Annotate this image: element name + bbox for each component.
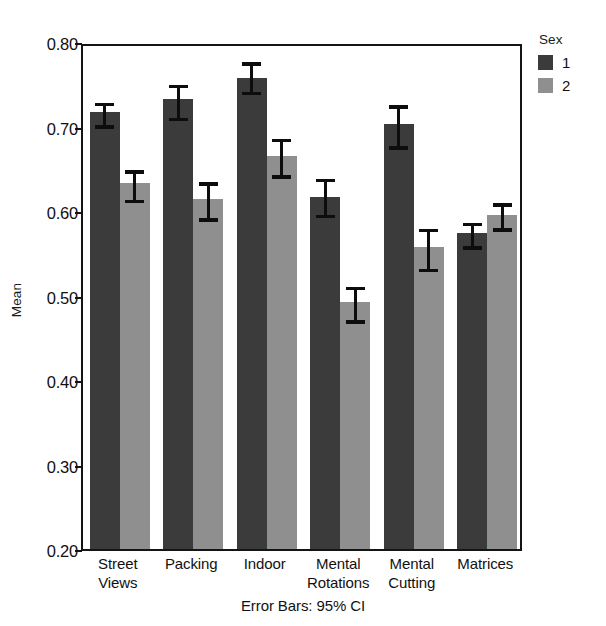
bar [457, 233, 487, 549]
error-bar [272, 139, 291, 179]
y-axis-tick-mark [75, 466, 82, 468]
error-bar [242, 62, 261, 95]
y-axis-tick-mark [75, 212, 82, 214]
bar [384, 124, 414, 549]
error-bar-stem [207, 182, 210, 222]
legend-swatch-icon [538, 55, 553, 70]
legend-swatch-icon [538, 78, 553, 93]
error-bar [389, 105, 408, 150]
error-bar-stem [250, 62, 253, 95]
error-bar-cap-upper [272, 139, 291, 143]
error-bar-cap-lower [125, 200, 144, 204]
bar [90, 112, 120, 549]
error-bar-cap-lower [95, 125, 114, 129]
error-bar [125, 170, 144, 203]
error-bar-cap-lower [242, 92, 261, 96]
error-bar-cap-upper [125, 170, 144, 174]
error-bar-cap-lower [346, 320, 365, 324]
y-axis-tick-labels: 0.200.300.400.500.600.700.80 [20, 0, 78, 626]
error-bar [199, 182, 218, 222]
bar [193, 199, 223, 549]
bar [310, 197, 340, 549]
chart-footnote: Error Bars: 95% CI [0, 597, 606, 614]
error-bar-cap-upper [316, 179, 335, 183]
error-bar-stem [397, 105, 400, 150]
error-bar-stem [280, 139, 283, 179]
error-bar-cap-upper [169, 85, 188, 89]
error-bar-cap-upper [346, 287, 365, 291]
error-bar-cap-upper [419, 229, 438, 233]
error-bar-cap-upper [389, 105, 408, 109]
bar [237, 78, 267, 550]
bar [120, 183, 150, 549]
y-axis-tick-label: 0.20 [26, 542, 78, 561]
error-bar-cap-lower [389, 146, 408, 150]
x-axis-tick-label: Matrices [443, 554, 529, 573]
legend-item-label: 1 [562, 54, 570, 71]
bar [340, 302, 370, 549]
y-axis-tick-mark [75, 381, 82, 383]
error-bar-cap-lower [493, 228, 512, 232]
error-bar-cap-lower [463, 246, 482, 250]
error-bar [169, 85, 188, 121]
error-bar-stem [427, 229, 430, 273]
error-bar [95, 103, 114, 129]
legend-items: 12 [538, 54, 604, 94]
y-axis-tick-label: 0.50 [26, 288, 78, 307]
y-axis-tick-mark [75, 550, 82, 552]
error-bar [419, 229, 438, 273]
error-bar [346, 287, 365, 324]
y-axis-tick-mark [75, 297, 82, 299]
y-axis-tick-label: 0.30 [26, 457, 78, 476]
bar [267, 156, 297, 549]
error-bar-cap-upper [493, 203, 512, 207]
legend-item-label: 2 [562, 77, 570, 94]
y-axis-tick-mark [75, 128, 82, 130]
y-axis-tick-label: 0.80 [26, 35, 78, 54]
legend-title: Sex [539, 32, 604, 47]
error-bar [493, 203, 512, 232]
y-axis-tick-label: 0.60 [26, 204, 78, 223]
bar [163, 99, 193, 549]
y-axis-tick-label: 0.70 [26, 119, 78, 138]
error-bar-cap-lower [169, 118, 188, 122]
error-bar-stem [133, 170, 136, 203]
error-bar-stem [324, 179, 327, 219]
plot-area [81, 44, 522, 551]
error-bar-cap-lower [419, 269, 438, 273]
error-bar-cap-upper [463, 223, 482, 227]
bar-chart-figure: Mean 0.200.300.400.500.600.700.80 Street… [0, 0, 606, 626]
bar [414, 247, 444, 549]
error-bar-cap-upper [95, 103, 114, 107]
error-bar [463, 223, 482, 250]
error-bar-cap-lower [316, 215, 335, 219]
error-bar-stem [177, 85, 180, 121]
error-bar-cap-lower [272, 175, 291, 179]
bar [487, 215, 517, 549]
error-bar-cap-lower [199, 218, 218, 222]
error-bar-cap-upper [199, 182, 218, 186]
y-axis-tick-label: 0.40 [26, 373, 78, 392]
error-bar-cap-upper [242, 62, 261, 66]
error-bar [316, 179, 335, 219]
legend-item[interactable]: 1 [538, 54, 604, 71]
legend-item[interactable]: 2 [538, 77, 604, 94]
legend: Sex 12 [538, 32, 604, 100]
y-axis-tick-mark [75, 43, 82, 45]
error-bar-stem [354, 287, 357, 324]
